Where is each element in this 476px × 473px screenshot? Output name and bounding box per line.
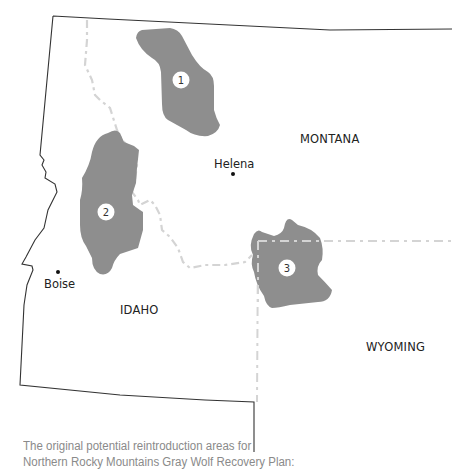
reintroduction-area-2[interactable] — [80, 131, 143, 275]
area-1-number: 1 — [178, 75, 184, 86]
city-dot-boise — [56, 270, 60, 274]
city-dot-helena — [231, 172, 235, 176]
area-2-number: 2 — [103, 207, 109, 218]
wolf-recovery-map: 1 2 3 MONTANA IDAHO WYOMING Helena Boise — [0, 0, 476, 473]
caption-line-1: The original potential reintroduction ar… — [23, 438, 294, 454]
caption-line-2: Northern Rocky Mountains Gray Wolf Recov… — [23, 454, 294, 470]
city-label-boise: Boise — [44, 277, 75, 291]
map-caption: The original potential reintroduction ar… — [23, 438, 294, 470]
state-label-montana: MONTANA — [300, 132, 359, 146]
state-label-wyoming: WYOMING — [366, 340, 425, 354]
state-label-idaho: IDAHO — [120, 303, 159, 317]
city-label-helena: Helena — [214, 157, 254, 171]
area-3-number: 3 — [284, 263, 290, 274]
